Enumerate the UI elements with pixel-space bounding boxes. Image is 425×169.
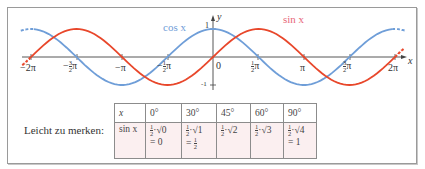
- table-header-row: x 0° 30° 45° 60° 90°: [115, 104, 317, 123]
- x-tick-label-minus-pi: −π: [115, 62, 126, 73]
- y-axis-label: y: [217, 11, 221, 22]
- y-axis-arrow-icon: [211, 15, 215, 21]
- cos-curve-dashed-left: [21, 29, 34, 31]
- table-row-sin: sin x 12·√0 = 0 12·√1 = 12 12·√2 12·√3 1…: [115, 123, 317, 159]
- easy-to-remember-label: Leicht zu merken:: [24, 124, 104, 136]
- y-tick-label-1: 1: [205, 21, 209, 30]
- x-tick-label-2pi: 2π: [388, 62, 398, 73]
- x-axis-label: x: [408, 55, 412, 66]
- x-tick-label-3-2-pi: 32π: [343, 60, 351, 73]
- x-tick-label-1-2-pi: 12π: [251, 60, 259, 73]
- cell-sin-0: 12·√0 = 0: [146, 123, 182, 159]
- x-tick-label-pi: π: [300, 62, 305, 73]
- y-tick-label-minus1: -1: [201, 80, 207, 88]
- header-0deg: 0°: [146, 104, 182, 123]
- cos-legend-label: cos x: [163, 21, 186, 33]
- sine-values-table: x 0° 30° 45° 60° 90° sin x 12·√0 = 0 12·…: [114, 103, 317, 159]
- header-90deg: 90°: [284, 104, 317, 123]
- cell-sin-90: 12·√4 = 1: [284, 123, 317, 159]
- x-tick-label-minus-1-2-pi: −12π: [157, 60, 171, 73]
- origin-label: 0: [216, 60, 221, 71]
- header-60deg: 60°: [251, 104, 284, 123]
- header-45deg: 45°: [217, 104, 251, 123]
- x-tick-label-minus-2pi: −2π: [20, 62, 36, 73]
- row-label-sin: sin x: [115, 123, 146, 159]
- x-axis-arrow-icon: [401, 55, 407, 59]
- sin-legend-label: sin x: [283, 13, 304, 25]
- header-x: x: [115, 104, 146, 123]
- x-tick-label-minus-3-2-pi: −32π: [63, 60, 77, 73]
- cell-sin-45: 12·√2: [217, 123, 251, 159]
- cos-curve-dashed-right: [392, 29, 405, 31]
- header-30deg: 30°: [182, 104, 217, 123]
- cell-sin-60: 12·√3: [251, 123, 284, 159]
- cell-sin-30: 12·√1 = 12: [182, 123, 217, 159]
